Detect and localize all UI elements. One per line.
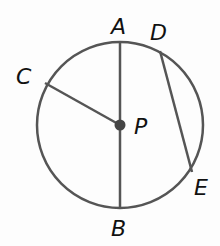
label-e: E [194,175,208,200]
diagram-canvas: A B C D E P [0,0,220,246]
label-b: B [111,216,126,241]
circle-diagram: A B C D E P [0,0,220,246]
chord-de [160,51,192,172]
radius-pc [45,83,120,125]
label-c: C [16,64,32,89]
label-a: A [109,14,126,39]
label-p: P [134,114,148,139]
label-d: D [150,20,167,45]
center-point-p [115,120,126,131]
